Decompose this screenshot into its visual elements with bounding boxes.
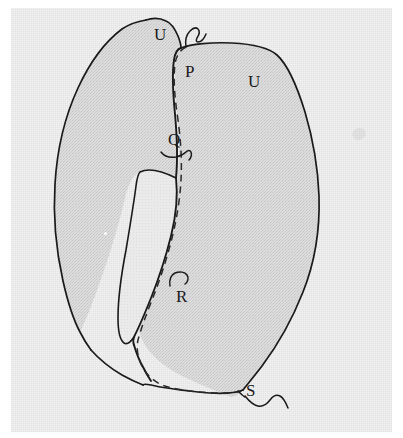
scan-speck [104,232,107,235]
label-q: Q [168,131,180,148]
label-r: R [176,288,187,305]
label-u-top: U [154,26,166,43]
line-drawing [0,0,403,438]
figure-root: U P U Q R S [0,0,403,438]
label-s: S [246,382,255,399]
bottom-vertex-notch [238,391,245,397]
label-p: P [185,63,194,80]
left-lobe-lower-tail [91,350,143,385]
label-u-right: U [248,73,260,90]
